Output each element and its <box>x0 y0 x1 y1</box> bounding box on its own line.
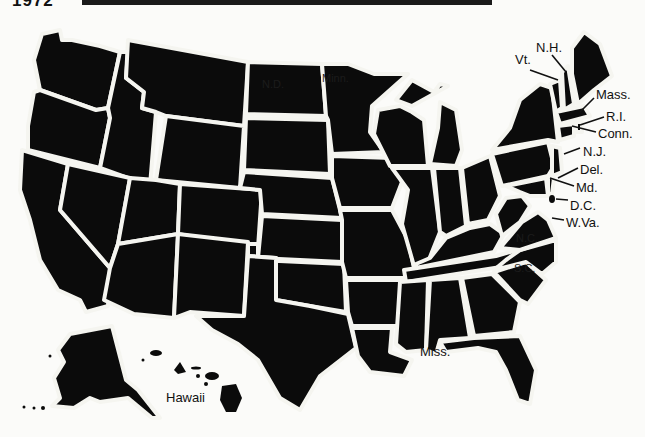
hawaii-island-kahoolawe <box>204 382 208 386</box>
label-sc: S.C. <box>514 262 535 274</box>
aleutian-island <box>23 406 26 409</box>
state-new-york[interactable] <box>492 84 558 150</box>
state-mississippi[interactable] <box>396 280 428 352</box>
state-alaska[interactable] <box>52 326 160 418</box>
hawaii-island-niihau <box>142 359 145 362</box>
state-wyoming[interactable] <box>156 116 244 188</box>
state-north-dakota[interactable] <box>246 62 326 116</box>
leader-dc <box>556 199 568 200</box>
state-arkansas[interactable] <box>346 280 402 326</box>
state-new-jersey[interactable] <box>552 146 562 176</box>
label-nd: N.D. <box>262 78 284 90</box>
label-del: Del. <box>580 162 603 177</box>
label-minn: Minn. <box>322 72 349 84</box>
hawaii-island-maui <box>205 372 219 380</box>
label-mass: Mass. <box>596 87 631 102</box>
label-wva: W.Va. <box>566 215 600 230</box>
hawaii-island-oahu <box>174 362 186 374</box>
label-nh: N.H. <box>536 40 562 55</box>
hawaii-island-lanai <box>196 374 200 378</box>
hawaii-island-kauai <box>150 350 162 356</box>
state-arizona[interactable] <box>104 234 178 318</box>
leader-wva <box>552 218 564 220</box>
leader-nh <box>552 55 566 72</box>
district-of-columbia[interactable] <box>549 195 555 203</box>
label-miss: Miss. <box>420 344 450 359</box>
aleutian-island <box>33 407 36 410</box>
us-map: Vt. N.H. Mass. R.I. Conn. N.J. Del. Md. … <box>0 0 645 437</box>
leader-vt <box>530 70 558 80</box>
state-michigan[interactable] <box>430 102 462 166</box>
state-florida[interactable] <box>440 336 536 404</box>
label-md: Md. <box>576 180 598 195</box>
label-hawaii: Hawaii <box>166 390 205 405</box>
label-ri: R.I. <box>606 109 626 124</box>
aleutian-island <box>41 406 45 410</box>
label-dc: D.C. <box>570 198 596 213</box>
label-nc: N.C. <box>516 232 538 244</box>
state-south-dakota[interactable] <box>244 118 330 174</box>
alaska-island <box>49 355 52 358</box>
state-kansas[interactable] <box>258 216 342 262</box>
hawaii-island-big-island <box>220 384 242 412</box>
state-new-mexico[interactable] <box>174 234 248 318</box>
label-vt: Vt. <box>515 52 531 67</box>
leader-nj <box>564 148 580 154</box>
state-connecticut[interactable] <box>558 124 574 140</box>
hawaii-island-molokai <box>191 367 201 370</box>
label-nj: N.J. <box>583 144 606 159</box>
label-conn: Conn. <box>598 126 633 141</box>
